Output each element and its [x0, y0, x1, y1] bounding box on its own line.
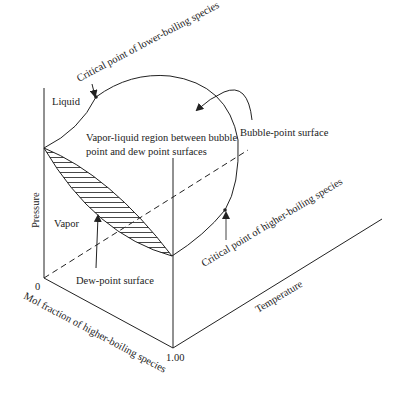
dew-surface-arrow — [96, 216, 98, 268]
pressure-label: Pressure — [30, 192, 41, 228]
composition-label: Mol fraction of higher-boiling species — [22, 290, 168, 375]
two-phase-lens — [44, 148, 172, 256]
critical-point-higher — [223, 208, 227, 212]
critical-lower-label: Critical point of lower-boiling species — [75, 0, 221, 84]
critical-higher-label: Critical point of higher-boiling species — [199, 176, 344, 269]
dew-surface-label: Dew-point surface — [76, 275, 154, 286]
pxy-diagram: Critical point of lower-boiling species … — [0, 0, 398, 394]
composition-origin-label: 0 — [35, 281, 40, 292]
two-phase-label-line1: Vapor-liquid region between bubble — [86, 132, 237, 143]
vapor-label: Vapor — [54, 218, 80, 229]
temperature-axis — [173, 219, 382, 348]
temperature-label: Temperature — [253, 278, 304, 315]
two-phase-label-line2: point and dew point surfaces — [86, 146, 207, 157]
critical-lower-arrow — [92, 84, 95, 96]
liquid-label: Liquid — [52, 96, 81, 107]
bubble-surface-label: Bubble-point surface — [240, 127, 329, 138]
composition-end-label: 1.00 — [166, 352, 184, 363]
